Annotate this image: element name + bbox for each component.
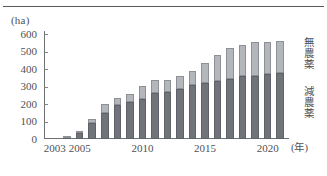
bar-2010 bbox=[139, 86, 147, 139]
bar-segment-pesticide-free bbox=[139, 86, 147, 99]
bar-2017 bbox=[226, 48, 234, 139]
x-tick-label-2020: 2020 bbox=[257, 142, 279, 154]
y-tick-label-200: 200 bbox=[21, 99, 38, 110]
y-axis-line bbox=[44, 31, 45, 139]
bar-segment-pesticide-free bbox=[63, 136, 71, 138]
bar-segment-pesticide-free bbox=[76, 131, 84, 133]
bar-2015 bbox=[201, 63, 209, 139]
plot-area bbox=[44, 31, 289, 139]
bar-segment-pesticide-free bbox=[226, 48, 234, 79]
y-tick-label-400: 400 bbox=[21, 64, 38, 75]
y-tick-label-300: 300 bbox=[21, 81, 38, 92]
bar-segment-pesticide-free bbox=[251, 42, 259, 76]
bar-2020 bbox=[264, 42, 272, 139]
x-tick-label-2003: 2003 bbox=[44, 142, 66, 154]
bar-segment-reduced-pesticide bbox=[264, 74, 272, 139]
bar-segment-reduced-pesticide bbox=[214, 81, 222, 139]
top-divider-rule bbox=[3, 6, 324, 7]
bar-segment-reduced-pesticide bbox=[114, 105, 122, 139]
x-tick-label-2010: 2010 bbox=[131, 142, 153, 154]
bar-2004 bbox=[63, 138, 71, 139]
bar-segment-pesticide-free bbox=[176, 76, 184, 89]
bar-segment-reduced-pesticide bbox=[176, 89, 184, 139]
bar-2018 bbox=[239, 45, 247, 140]
bar-2006 bbox=[88, 119, 96, 139]
series-label-reduced-pesticide: 減農薬 bbox=[302, 86, 313, 119]
x-axis-tick-labels: (年) 20032005201020152020 bbox=[0, 142, 327, 162]
bar-segment-reduced-pesticide bbox=[276, 73, 284, 140]
bar-2014 bbox=[189, 71, 197, 139]
bar-2019 bbox=[251, 42, 259, 139]
bar-segment-pesticide-free bbox=[189, 71, 197, 85]
y-tick-400 bbox=[44, 69, 48, 70]
bar-segment-reduced-pesticide bbox=[151, 93, 159, 139]
bar-segment-reduced-pesticide bbox=[239, 76, 247, 139]
bar-segment-pesticide-free bbox=[151, 80, 159, 92]
bar-segment-reduced-pesticide bbox=[139, 99, 147, 139]
bar-segment-reduced-pesticide bbox=[88, 123, 96, 139]
y-tick-label-500: 500 bbox=[21, 46, 38, 57]
bar-segment-reduced-pesticide bbox=[201, 83, 209, 139]
bar-segment-reduced-pesticide bbox=[251, 76, 259, 139]
y-tick-label-600: 600 bbox=[21, 29, 38, 40]
y-axis-unit-label: (ha) bbox=[11, 14, 30, 26]
bar-2009 bbox=[126, 94, 134, 140]
y-axis-tick-labels: 0100200300400500600 bbox=[0, 31, 37, 146]
x-tick-label-2015: 2015 bbox=[194, 142, 216, 154]
y-tick-500 bbox=[44, 52, 48, 53]
bar-segment-reduced-pesticide bbox=[76, 133, 84, 139]
x-axis-unit-label: (年) bbox=[291, 142, 308, 154]
y-tick-label-100: 100 bbox=[21, 116, 38, 127]
bar-2011 bbox=[151, 80, 159, 139]
bar-segment-pesticide-free bbox=[164, 80, 172, 92]
bar-segment-pesticide-free bbox=[114, 98, 122, 105]
bar-segment-reduced-pesticide bbox=[189, 85, 197, 139]
bar-segment-reduced-pesticide bbox=[126, 102, 134, 139]
bar-2008 bbox=[114, 98, 122, 139]
series-label-pesticide-free: 無農薬 bbox=[302, 37, 313, 70]
y-tick-600 bbox=[44, 34, 48, 35]
bar-2007 bbox=[101, 104, 109, 139]
bar-2005 bbox=[76, 131, 84, 139]
bar-segment-pesticide-free bbox=[126, 94, 134, 103]
bar-segment-pesticide-free bbox=[239, 45, 247, 77]
bar-2012 bbox=[164, 80, 172, 139]
y-tick-100 bbox=[44, 122, 48, 123]
bar-segment-pesticide-free bbox=[214, 55, 222, 82]
bar-segment-pesticide-free bbox=[88, 119, 96, 123]
bar-segment-reduced-pesticide bbox=[164, 92, 172, 139]
y-tick-300 bbox=[44, 87, 48, 88]
chart-figure: (ha) 0100200300400500600 (年) 20032005201… bbox=[0, 0, 327, 176]
bar-segment-pesticide-free bbox=[276, 41, 284, 73]
x-tick-label-2005: 2005 bbox=[69, 142, 91, 154]
bar-segment-pesticide-free bbox=[264, 42, 272, 74]
bar-2016 bbox=[214, 55, 222, 139]
bar-2013 bbox=[176, 76, 184, 139]
y-tick-200 bbox=[44, 104, 48, 105]
bar-segment-pesticide-free bbox=[201, 63, 209, 83]
bar-segment-reduced-pesticide bbox=[101, 113, 109, 139]
bar-segment-reduced-pesticide bbox=[226, 79, 234, 139]
bar-segment-pesticide-free bbox=[101, 104, 109, 113]
bar-2021 bbox=[276, 41, 284, 139]
